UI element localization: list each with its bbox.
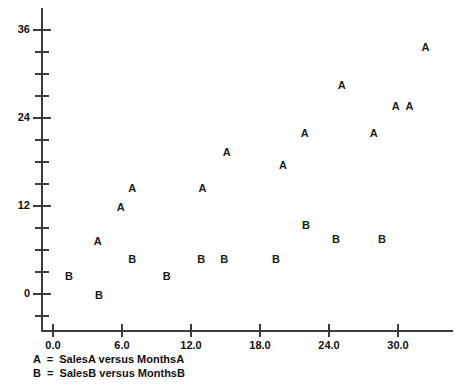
data-point-a: A — [419, 40, 433, 54]
data-point-b: B — [329, 232, 343, 246]
data-point-a: A — [367, 126, 381, 140]
y-axis-minor-tick — [35, 227, 49, 229]
data-point-a: A — [196, 181, 210, 195]
y-axis-tick-label: 12 — [2, 200, 30, 211]
x-axis-line — [41, 330, 453, 332]
data-point-a: A — [220, 145, 234, 159]
scatter-plot-figure: 0122436 0.06.012.018.024.030.0 AAAAAAAAA… — [0, 0, 455, 387]
x-axis-tick — [259, 324, 261, 337]
y-axis-major-tick — [33, 205, 51, 207]
x-axis-tick — [121, 324, 123, 337]
data-point-a: A — [403, 99, 417, 113]
y-axis-minor-tick — [35, 161, 49, 163]
x-axis-tick-label: 6.0 — [100, 340, 144, 351]
x-axis-tick-label: 0.0 — [31, 340, 75, 351]
data-point-b: B — [269, 252, 283, 266]
data-point-a: A — [125, 181, 139, 195]
data-point-b: B — [375, 232, 389, 246]
data-point-b: B — [125, 252, 139, 266]
y-axis-tick-label: 36 — [2, 24, 30, 35]
x-axis-tick-label: 24.0 — [307, 340, 351, 351]
y-axis-minor-tick — [35, 271, 49, 273]
y-axis-minor-tick — [35, 95, 49, 97]
data-point-a: A — [114, 200, 128, 214]
data-point-a: A — [335, 78, 349, 92]
x-axis-tick — [190, 324, 192, 337]
x-axis-tick-label: 12.0 — [169, 340, 213, 351]
legend-entry-a: A = SalesA versus MonthsA — [33, 352, 185, 366]
x-axis-tick-label: 18.0 — [238, 340, 282, 351]
y-axis-tick-label: 24 — [2, 112, 30, 123]
data-point-a: A — [389, 99, 403, 113]
x-axis-tick — [328, 324, 330, 337]
data-point-b: B — [194, 252, 208, 266]
data-point-a: A — [91, 234, 105, 248]
y-axis-major-tick — [33, 117, 51, 119]
y-axis-minor-tick — [35, 249, 49, 251]
data-point-b: B — [160, 269, 174, 283]
legend-entry-b: B = SalesB versus MonthsB — [33, 366, 185, 380]
legend: A = SalesA versus MonthsA B = SalesB ver… — [33, 352, 185, 380]
y-axis-line — [41, 8, 43, 331]
y-axis-major-tick — [33, 293, 51, 295]
x-axis-tick — [52, 324, 54, 337]
y-axis-major-tick — [33, 29, 51, 31]
data-point-b: B — [299, 218, 313, 232]
data-point-a: A — [276, 158, 290, 172]
data-point-a: A — [298, 126, 312, 140]
y-axis-minor-tick — [35, 315, 49, 317]
x-axis-tick — [397, 324, 399, 337]
y-axis-minor-tick — [35, 51, 49, 53]
y-axis-tick-label: 0 — [2, 288, 30, 299]
data-point-b: B — [62, 269, 76, 283]
data-point-b: B — [92, 288, 106, 302]
x-axis-tick-label: 30.0 — [376, 340, 420, 351]
data-point-b: B — [217, 252, 231, 266]
y-axis-minor-tick — [35, 73, 49, 75]
y-axis-minor-tick — [35, 183, 49, 185]
y-axis-minor-tick — [35, 139, 49, 141]
